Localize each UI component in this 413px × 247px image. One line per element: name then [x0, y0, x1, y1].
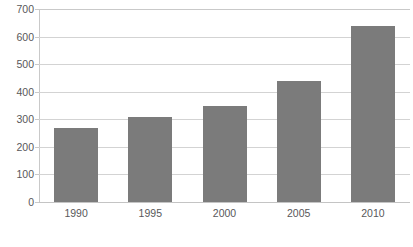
- x-axis-label: 1990: [39, 208, 113, 219]
- y-axis-label: 700: [2, 4, 34, 15]
- bar: [203, 106, 247, 203]
- bar: [54, 128, 98, 202]
- y-axis-label: 600: [2, 32, 34, 43]
- bar: [351, 26, 395, 202]
- y-axis-label: 100: [2, 169, 34, 180]
- bar: [277, 81, 321, 202]
- x-axis-label: 2000: [188, 208, 262, 219]
- bars-container: [39, 9, 410, 202]
- x-axis-label: 1995: [113, 208, 187, 219]
- y-axis-tick: [35, 202, 39, 203]
- x-axis-label: 2005: [262, 208, 336, 219]
- y-axis-label: 0: [2, 197, 34, 208]
- x-axis-label: 2010: [336, 208, 410, 219]
- y-axis-label: 500: [2, 59, 34, 70]
- bar-chart: 0100200300400500600700 19901995200020052…: [0, 0, 413, 247]
- chart-title: [110, 0, 310, 1]
- bar: [128, 117, 172, 202]
- y-axis-label: 200: [2, 142, 34, 153]
- gridline: [39, 202, 410, 203]
- y-axis-label: 300: [2, 114, 34, 125]
- y-axis-label: 400: [2, 87, 34, 98]
